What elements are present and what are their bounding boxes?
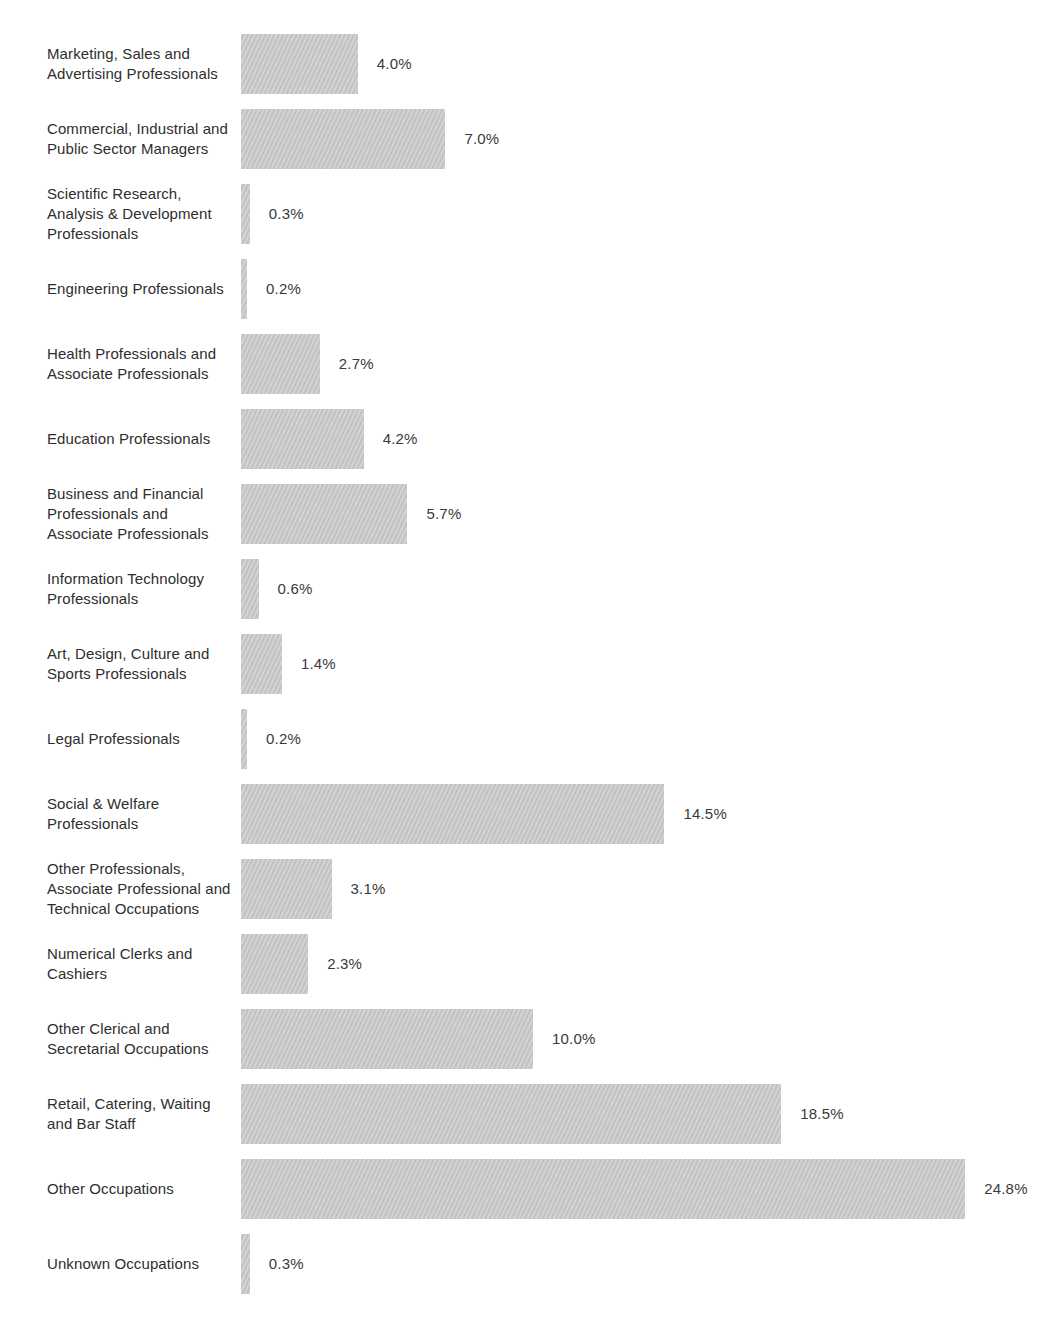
bar xyxy=(241,1084,781,1144)
value-label: 4.0% xyxy=(377,55,412,72)
bar xyxy=(241,484,407,544)
category-label: Legal Professionals xyxy=(0,729,241,749)
bar-area: 0.3% xyxy=(241,1226,1039,1301)
chart-row: Engineering Professionals 0.2% xyxy=(0,251,1039,326)
bar-area: 14.5% xyxy=(241,776,1039,851)
chart-row: Information Technology Professionals 0.6… xyxy=(0,551,1039,626)
value-label: 1.4% xyxy=(301,655,336,672)
bar-area: 4.0% xyxy=(241,26,1039,101)
value-label: 7.0% xyxy=(464,130,499,147)
value-label: 0.3% xyxy=(269,1255,304,1272)
value-label: 4.2% xyxy=(383,430,418,447)
chart-row: Retail, Catering, Waiting and Bar Staff … xyxy=(0,1076,1039,1151)
category-label: Marketing, Sales and Advertising Profess… xyxy=(0,44,241,84)
category-label: Retail, Catering, Waiting and Bar Staff xyxy=(0,1094,241,1134)
value-label: 14.5% xyxy=(683,805,727,822)
bar-area: 5.7% xyxy=(241,476,1039,551)
category-label: Information Technology Professionals xyxy=(0,569,241,609)
bar xyxy=(241,784,664,844)
bar xyxy=(241,334,320,394)
value-label: 0.3% xyxy=(269,205,304,222)
bar xyxy=(241,634,282,694)
value-label: 2.7% xyxy=(339,355,374,372)
chart-row: Other Professionals, Associate Professio… xyxy=(0,851,1039,926)
chart-row: Marketing, Sales and Advertising Profess… xyxy=(0,26,1039,101)
value-label: 10.0% xyxy=(552,1030,596,1047)
bar-area: 0.2% xyxy=(241,251,1039,326)
bar-area: 1.4% xyxy=(241,626,1039,701)
category-label: Numerical Clerks and Cashiers xyxy=(0,944,241,984)
value-label: 0.2% xyxy=(266,730,301,747)
bar-area: 10.0% xyxy=(241,1001,1039,1076)
chart-row: Unknown Occupations 0.3% xyxy=(0,1226,1039,1301)
bar-area: 7.0% xyxy=(241,101,1039,176)
bar xyxy=(241,859,332,919)
category-label: Health Professionals and Associate Profe… xyxy=(0,344,241,384)
chart-row: Other Clerical and Secretarial Occupatio… xyxy=(0,1001,1039,1076)
chart-row: Business and Financial Professionals and… xyxy=(0,476,1039,551)
bar-area: 0.2% xyxy=(241,701,1039,776)
bar xyxy=(241,934,308,994)
bar-area: 3.1% xyxy=(241,851,1039,926)
bar-area: 0.6% xyxy=(241,551,1039,626)
category-label: Engineering Professionals xyxy=(0,279,241,299)
value-label: 2.3% xyxy=(327,955,362,972)
category-label: Commercial, Industrial and Public Sector… xyxy=(0,119,241,159)
value-label: 24.8% xyxy=(984,1180,1028,1197)
category-label: Business and Financial Professionals and… xyxy=(0,484,241,544)
bar-area: 24.8% xyxy=(241,1151,1039,1226)
value-label: 18.5% xyxy=(800,1105,844,1122)
bar xyxy=(241,184,250,244)
occupations-bar-chart: Marketing, Sales and Advertising Profess… xyxy=(0,0,1039,1339)
category-label: Social & Welfare Professionals xyxy=(0,794,241,834)
chart-row: Art, Design, Culture and Sports Professi… xyxy=(0,626,1039,701)
bar xyxy=(241,34,358,94)
value-label: 5.7% xyxy=(426,505,461,522)
category-label: Scientific Research, Analysis & Developm… xyxy=(0,184,241,244)
category-label: Unknown Occupations xyxy=(0,1254,241,1274)
bar xyxy=(241,1009,533,1069)
chart-row: Numerical Clerks and Cashiers 2.3% xyxy=(0,926,1039,1001)
bar xyxy=(241,259,247,319)
bar-area: 4.2% xyxy=(241,401,1039,476)
chart-row: Education Professionals 4.2% xyxy=(0,401,1039,476)
chart-row: Health Professionals and Associate Profe… xyxy=(0,326,1039,401)
bar xyxy=(241,1234,250,1294)
bar xyxy=(241,1159,965,1219)
bar xyxy=(241,409,364,469)
category-label: Other Professionals, Associate Professio… xyxy=(0,859,241,919)
category-label: Other Occupations xyxy=(0,1179,241,1199)
category-label: Other Clerical and Secretarial Occupatio… xyxy=(0,1019,241,1059)
bar-area: 18.5% xyxy=(241,1076,1039,1151)
category-label: Art, Design, Culture and Sports Professi… xyxy=(0,644,241,684)
chart-row: Scientific Research, Analysis & Developm… xyxy=(0,176,1039,251)
chart-row: Social & Welfare Professionals 14.5% xyxy=(0,776,1039,851)
chart-row: Legal Professionals 0.2% xyxy=(0,701,1039,776)
value-label: 3.1% xyxy=(351,880,386,897)
chart-row: Commercial, Industrial and Public Sector… xyxy=(0,101,1039,176)
bar-area: 2.3% xyxy=(241,926,1039,1001)
bar-area: 2.7% xyxy=(241,326,1039,401)
value-label: 0.2% xyxy=(266,280,301,297)
bar xyxy=(241,709,247,769)
bar xyxy=(241,559,259,619)
chart-row: Other Occupations 24.8% xyxy=(0,1151,1039,1226)
category-label: Education Professionals xyxy=(0,429,241,449)
bar-area: 0.3% xyxy=(241,176,1039,251)
bar xyxy=(241,109,445,169)
value-label: 0.6% xyxy=(278,580,313,597)
